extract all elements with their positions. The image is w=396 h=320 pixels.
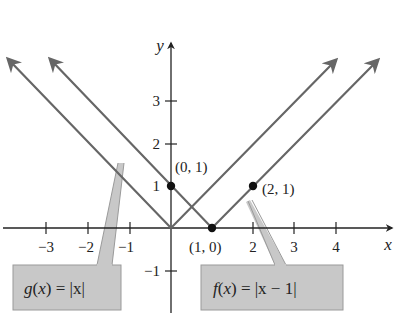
- f-legend-box: f(x) = |x − 1|: [201, 264, 343, 310]
- g-legend-box: g(x) = |x|: [13, 264, 121, 310]
- point-0-1: [167, 182, 175, 190]
- x-axis-label: x: [383, 235, 392, 254]
- point-label-0-1: (0, 1): [175, 159, 208, 176]
- point-label-2-1: (2, 1): [262, 181, 295, 198]
- x-tick-label-2: 2: [249, 239, 257, 255]
- x-tick-label-4: 4: [332, 239, 340, 255]
- y-tick-label-neg1: −1: [144, 263, 160, 279]
- x-tick-label-3: 3: [290, 239, 298, 255]
- absolute-value-graph: −3 −2 −1 2 3 4 3 2 1 −1 x y (0, 1) (1, 0…: [0, 0, 396, 320]
- point-label-1-0: (1, 0): [189, 239, 222, 256]
- x-tick-label-neg3: −3: [38, 239, 54, 255]
- g-legend-label: g(x) = |x|: [24, 279, 85, 298]
- point-1-0: [208, 224, 216, 232]
- f-legend-pointer: [246, 200, 286, 265]
- x-tick-label-neg1: −1: [118, 239, 134, 255]
- x-tick-label-neg2: −2: [78, 239, 94, 255]
- y-tick-label-3: 3: [153, 93, 161, 109]
- f-legend-label: f(x) = |x − 1|: [213, 279, 297, 298]
- y-axis-label: y: [154, 36, 164, 55]
- f-graph-line: [50, 59, 378, 228]
- point-2-1: [249, 182, 257, 190]
- y-tick-label-1: 1: [153, 178, 161, 194]
- y-tick-label-2: 2: [153, 136, 161, 152]
